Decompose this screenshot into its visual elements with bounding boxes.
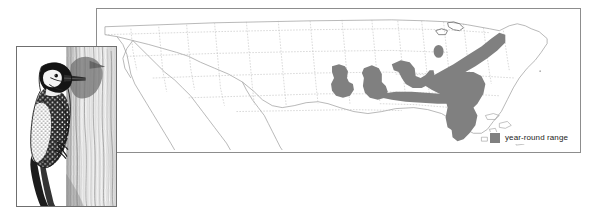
legend-label-year-round-range: year-round range bbox=[505, 133, 568, 143]
year-round-range-layer bbox=[331, 33, 505, 141]
map-scale-mark bbox=[539, 70, 541, 72]
woodpecker-illustration bbox=[17, 47, 116, 206]
legend-swatch-year-round-range bbox=[490, 133, 500, 143]
bird-illustration-plate bbox=[16, 46, 117, 207]
map-legend: year-round range bbox=[488, 132, 570, 144]
map-graphic bbox=[97, 9, 580, 152]
range-map-panel: year-round range bbox=[96, 8, 581, 153]
great-lakes bbox=[436, 22, 464, 35]
range-map-figure: year-round range bbox=[0, 0, 589, 218]
